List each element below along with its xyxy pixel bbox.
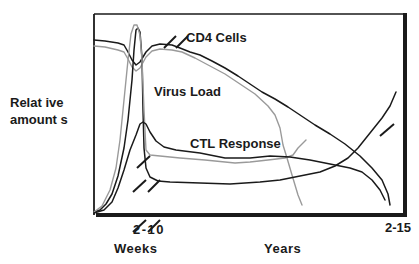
label-ctl-response: CTL Response bbox=[190, 136, 281, 151]
series-virus-load-shadow-line bbox=[94, 25, 306, 212]
chart-canvas: CD4 Cells Virus Load CTL Response Relat … bbox=[0, 0, 419, 264]
y-axis-label-line2: amount s bbox=[10, 112, 68, 127]
axis-break-mark bbox=[137, 156, 150, 168]
y-axis-label-line1: Relat ive bbox=[10, 95, 63, 110]
axis-break-mark bbox=[133, 180, 146, 192]
x-axis-label-years: Years bbox=[264, 241, 301, 256]
label-virus-load: Virus Load bbox=[154, 84, 221, 99]
x-tick-2-15: 2-15 bbox=[385, 220, 411, 235]
x-axis-label-weeks: Weeks bbox=[114, 241, 157, 256]
series-layer bbox=[94, 25, 396, 213]
series-virus-load-line bbox=[94, 28, 396, 212]
axis-break-mark bbox=[380, 124, 394, 136]
axis-break-mark bbox=[148, 180, 160, 192]
x-tick-2-10: 2-10 bbox=[133, 222, 165, 237]
label-cd4-cells: CD4 Cells bbox=[186, 30, 247, 45]
series-cd4-cells-line bbox=[94, 40, 390, 205]
axis-break-marks bbox=[133, 36, 394, 232]
